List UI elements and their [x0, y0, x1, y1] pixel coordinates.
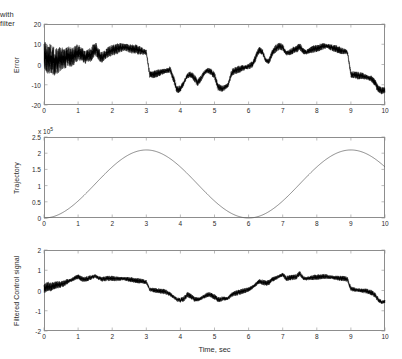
x-tick-label: 10 — [381, 220, 388, 227]
x-tick-label: 0 — [42, 220, 46, 227]
x-tick-label: 1 — [76, 333, 80, 340]
y-tick-label: -2 — [20, 328, 41, 335]
x-axis-label: Time, sec — [44, 345, 385, 354]
y-tick-label: 2 — [20, 247, 41, 254]
x-tick-label: 3 — [144, 333, 148, 340]
y-tick-label: -20 — [20, 102, 41, 109]
x-tick-label: 3 — [144, 220, 148, 227]
y-tick-label: 20 — [20, 21, 41, 28]
x-tick-label: 2 — [110, 220, 114, 227]
signal-noise-band — [44, 271, 385, 304]
x-tick-label: 7 — [281, 107, 285, 114]
y-axis-label-control: Filtered Control signal — [13, 255, 20, 325]
x-tick-label: 0 — [42, 107, 46, 114]
x-tick-label: 8 — [315, 333, 319, 340]
y-tick-label: 1.5 — [20, 166, 41, 173]
x-tick-label: 1 — [76, 220, 80, 227]
x-tick-label: 6 — [247, 107, 251, 114]
y-tick-label: 0 — [20, 215, 41, 222]
y-tick-label: 1 — [20, 182, 41, 189]
x-tick-label: 6 — [247, 220, 251, 227]
y-tick-label: -10 — [20, 81, 41, 88]
x-tick-label: 5 — [213, 220, 217, 227]
x-tick-label: 9 — [349, 107, 353, 114]
x-tick-label: 3 — [144, 107, 148, 114]
y-tick-label: 2.5 — [20, 134, 41, 141]
x-tick-label: 1 — [76, 107, 80, 114]
x-tick-label: 2 — [110, 107, 114, 114]
x-tick-label: 5 — [213, 107, 217, 114]
y-tick-label: 2 — [20, 150, 41, 157]
x-tick-label: 8 — [315, 220, 319, 227]
x-tick-label: 5 — [213, 333, 217, 340]
x-tick-label: 9 — [349, 333, 353, 340]
x-tick-label: 7 — [281, 220, 285, 227]
y-tick-label: 0.5 — [20, 198, 41, 205]
y-tick-label: 10 — [20, 41, 41, 48]
x-tick-label: 0 — [42, 333, 46, 340]
x-tick-label: 4 — [179, 107, 183, 114]
y-tick-label: 0 — [20, 287, 41, 294]
x-tick-label: 10 — [381, 107, 388, 114]
x-tick-label: 6 — [247, 333, 251, 340]
y-tick-label: 0 — [20, 61, 41, 68]
x-tick-label: 2 — [110, 333, 114, 340]
matlab-figure: with filter Error Trajectory x 105 Filte… — [0, 0, 402, 359]
x-tick-label: 9 — [349, 220, 353, 227]
x-tick-label: 8 — [315, 107, 319, 114]
x-tick-label: 7 — [281, 333, 285, 340]
plot-canvas-control — [0, 0, 402, 359]
y-tick-label: -1 — [20, 307, 41, 314]
x-tick-label: 10 — [381, 333, 388, 340]
x-tick-label: 4 — [179, 220, 183, 227]
y-tick-label: 1 — [20, 267, 41, 274]
x-tick-label: 4 — [179, 333, 183, 340]
